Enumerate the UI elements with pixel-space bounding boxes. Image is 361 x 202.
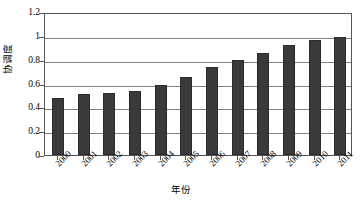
bar [334,37,346,155]
bar [103,93,115,155]
bar [232,60,244,155]
bar [129,91,141,155]
y-axis: 00.20.40.60.811.2 [0,0,44,156]
x-axis-title: 年份 [0,182,361,196]
bar [78,94,90,155]
bars-group [45,14,351,155]
bar [155,85,167,155]
bar [309,40,321,155]
bar [206,67,218,155]
bar [257,53,269,155]
plot-area [44,13,352,156]
bar [52,98,64,155]
bar [180,77,192,155]
bar-chart: 协调度 00.20.40.60.811.2 200020012002200320… [0,0,361,202]
bar [283,45,295,155]
